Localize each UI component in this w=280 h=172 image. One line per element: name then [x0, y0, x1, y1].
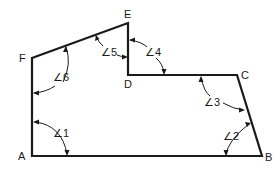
angle-1-label: ∠1 — [53, 127, 69, 139]
angle-2-label: ∠2 — [223, 130, 239, 142]
polygon-diagram: A B C D E F ∠1 ∠2 ∠3 ∠4 ∠5 — [0, 0, 280, 172]
vertex-label-e: E — [124, 8, 131, 20]
vertex-label-a: A — [18, 150, 26, 162]
vertex-label-f: F — [19, 52, 26, 64]
angle-1-marker: ∠1 — [33, 120, 70, 157]
angle-4-label: ∠4 — [145, 46, 161, 58]
vertex-label-d: D — [124, 78, 132, 90]
angle-2-marker: ∠2 — [223, 122, 251, 156]
angle-3-label: ∠3 — [204, 96, 220, 108]
vertex-label-c: C — [241, 69, 249, 81]
angle-5-label: ∠5 — [101, 46, 117, 58]
angle-5-marker: ∠5 — [95, 35, 128, 60]
angle-6-marker: ∠6 — [33, 46, 69, 96]
angle-6-label: ∠6 — [53, 71, 69, 83]
angle-4-marker: ∠4 — [129, 38, 167, 76]
vertex-label-b: B — [265, 151, 272, 163]
